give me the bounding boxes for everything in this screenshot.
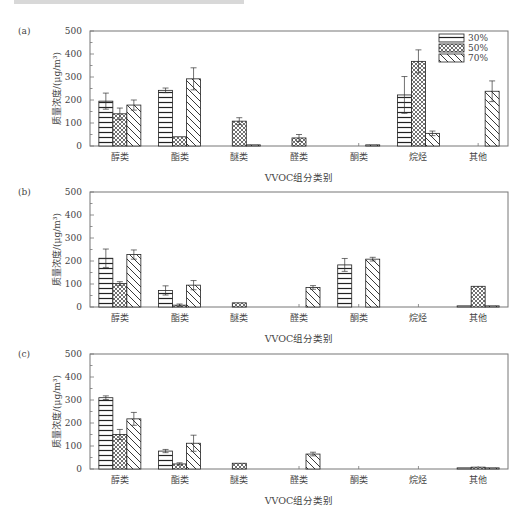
legend-label: 70% [468,53,488,63]
y-axis-title: 质量浓度/(μg/m³) [51,213,62,286]
bar-70pct [366,259,380,307]
plot-frame [90,192,508,307]
bar-50pct [173,137,187,146]
y-tick-label: 400 [65,372,82,382]
bar-chart: 0100200300400500质量浓度/(μg/m³)(a)醇类酯类醚类醛类酮… [0,20,526,185]
x-tick-label: 醇类 [111,151,129,162]
bar-70pct [127,255,141,307]
x-tick-label: 酮类 [350,474,368,485]
bar-30pct [159,451,173,469]
bar-70pct [246,145,260,146]
x-tick-label: 醇类 [111,312,129,323]
panel-tag: (a) [18,26,30,36]
bar-chart: 0100200300400500质量浓度/(μg/m³)(b)醇类酯类醚类醛类酮… [0,181,526,346]
bar-30pct [457,306,471,307]
legend-label: 30% [468,33,488,43]
y-axis-title: 质量浓度/(μg/m³) [51,52,62,125]
x-tick-label: 其他 [469,312,487,323]
y-tick-label: 200 [65,256,82,266]
plot-frame [90,354,508,469]
y-tick-label: 100 [65,279,82,289]
chart-panel-a: 0100200300400500质量浓度/(μg/m³)(a)醇类酯类醚类醛类酮… [0,20,526,185]
legend-label: 50% [468,43,488,53]
x-tick-label: 醛类 [290,151,308,162]
bar-30pct [159,90,173,146]
bar-50pct [471,467,485,469]
y-tick-label: 500 [65,349,82,359]
chart-panel-b: 0100200300400500质量浓度/(μg/m³)(b)醇类酯类醚类醛类酮… [0,181,526,346]
panel-tag: (c) [18,349,30,359]
x-tick-label: 酯类 [171,312,189,323]
y-tick-label: 200 [65,418,82,428]
bar-30pct [457,468,471,469]
x-tick-label: 酯类 [171,151,189,162]
bar-70pct [127,105,141,146]
y-tick-label: 100 [65,118,82,128]
bar-50pct [471,286,485,307]
bar-70pct [306,287,320,307]
bar-30pct [99,398,113,469]
bar-chart: 0100200300400500质量浓度/(μg/m³)(c)醇类酯类醚类醛类酮… [0,343,526,508]
x-tick-label: 酮类 [350,312,368,323]
y-tick-label: 500 [65,187,82,197]
y-tick-label: 500 [65,26,82,36]
bar-50pct [113,284,127,307]
y-tick-label: 100 [65,441,82,451]
x-tick-label: 醇类 [111,474,129,485]
x-tick-label: 烷烃 [409,151,427,162]
x-tick-label: 醚类 [230,312,248,323]
y-tick-label: 300 [65,395,82,405]
cropped-caption-text [14,0,244,4]
bar-70pct [366,145,380,146]
bar-70pct [306,454,320,469]
x-tick-label: 烷烃 [409,474,427,485]
x-tick-label: 醛类 [290,312,308,323]
bar-50pct [232,463,246,469]
y-tick-label: 0 [76,141,82,151]
bar-50pct [232,303,246,307]
x-tick-label: 酯类 [171,474,189,485]
legend: 30%50%70% [439,33,488,63]
y-tick-label: 300 [65,72,82,82]
y-axis-title: 质量浓度/(μg/m³) [51,375,62,448]
y-tick-label: 0 [76,464,82,474]
bar-70pct [127,419,141,469]
x-tick-label: 烷烃 [409,312,427,323]
y-tick-label: 300 [65,233,82,243]
x-tick-label: 醛类 [290,474,308,485]
bar-50pct [411,61,425,146]
bar-70pct [485,306,499,307]
x-tick-label: 其他 [469,474,487,485]
x-tick-label: 其他 [469,151,487,162]
x-axis-title: VVOC组分类别 [264,495,334,506]
y-tick-label: 0 [76,302,82,312]
y-tick-label: 200 [65,95,82,105]
y-tick-label: 400 [65,210,82,220]
x-tick-label: 醚类 [230,151,248,162]
bar-70pct [485,468,499,469]
x-tick-label: 酮类 [350,151,368,162]
chart-panel-c: 0100200300400500质量浓度/(μg/m³)(c)醇类酯类醚类醛类酮… [0,343,526,508]
panel-tag: (b) [18,187,31,197]
x-tick-label: 醚类 [230,474,248,485]
y-tick-label: 400 [65,49,82,59]
